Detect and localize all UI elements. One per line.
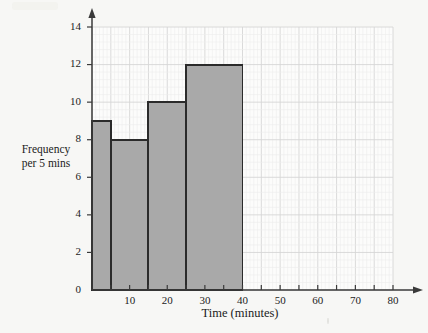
y-tick-label: 0 [59, 283, 81, 295]
x-tick-label: 40 [231, 294, 255, 306]
bar-1[interactable] [111, 140, 149, 290]
y-tick-label: 6 [59, 170, 81, 182]
bar-2[interactable] [148, 102, 186, 290]
y-tick-label: 2 [59, 245, 81, 257]
bar-3[interactable] [186, 65, 242, 290]
y-axis-arrow-icon [88, 8, 95, 18]
x-tick-label: 20 [155, 294, 179, 306]
x-tick-label: 10 [118, 294, 142, 306]
y-tick-label: 12 [59, 57, 81, 69]
x-tick-label: 70 [343, 294, 367, 306]
bar-0[interactable] [92, 121, 111, 290]
y-tick-label: 10 [59, 95, 81, 107]
x-tick-label: 50 [268, 294, 292, 306]
x-tick-label: 60 [306, 294, 330, 306]
x-tick-label: 80 [381, 294, 405, 306]
histogram-figure: Frequency per 5 mins Time (minutes) 0246… [0, 0, 428, 333]
y-tick-label: 14 [59, 20, 81, 32]
y-tick-label: 8 [59, 132, 81, 144]
y-tick-label: 4 [59, 207, 81, 219]
x-axis-arrow-icon [413, 286, 423, 293]
x-tick-label: 30 [193, 294, 217, 306]
